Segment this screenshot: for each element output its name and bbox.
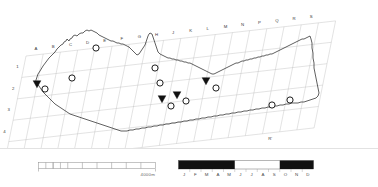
marker-layer <box>33 45 293 109</box>
month-label: A <box>257 172 268 177</box>
circle-marker <box>42 86 48 92</box>
grid-line-col <box>177 37 199 144</box>
month-label: J <box>246 172 257 177</box>
survey-grid <box>5 21 336 148</box>
month-tick-labels: JFMAMJJASOND <box>178 172 314 180</box>
month-label: A <box>212 172 223 177</box>
grid-column-label: S <box>310 14 313 19</box>
grid-column-label: K <box>189 28 192 33</box>
grid-line-col <box>228 31 250 138</box>
circle-marker <box>183 98 189 104</box>
grid-line-col <box>142 40 164 147</box>
grid-line-row <box>26 21 336 56</box>
circle-marker <box>269 102 275 108</box>
grid-row-label: 2 <box>12 86 15 91</box>
grid-column-label: A <box>34 46 37 51</box>
grid-line-col <box>108 44 130 148</box>
legend-strip: 4000m JFMAMJJASOND <box>0 150 378 187</box>
grid-line-col <box>194 35 216 142</box>
grid-column-label: P <box>258 20 261 25</box>
circle-marker <box>69 75 75 81</box>
grid-line-col <box>297 23 319 130</box>
map-figure: ABCDEFGHJKLMNPQRS1234B'D'F'R' 4000m JFMA… <box>0 0 378 187</box>
month-label: J <box>235 172 246 177</box>
month-label: M <box>224 172 235 177</box>
triangle-marker <box>173 92 181 99</box>
grid-column-label: G <box>138 34 142 39</box>
circle-marker <box>213 85 219 91</box>
circle-marker <box>93 45 99 51</box>
grid-line-col <box>125 42 146 148</box>
circle-marker <box>152 65 158 71</box>
grid-column-label: N <box>241 22 244 27</box>
grid-column-label: D <box>86 40 89 45</box>
grid-column-label: H <box>155 32 158 37</box>
grid-bottom-label: R' <box>268 136 272 141</box>
map-panel: ABCDEFGHJKLMNPQRS1234B'D'F'R' <box>0 0 378 148</box>
grid-line-col <box>56 50 78 148</box>
panel-divider <box>0 148 378 149</box>
grid-line-col <box>91 46 113 148</box>
triangle-marker <box>158 96 166 103</box>
grid-column-label: Q <box>275 18 279 23</box>
grid-line-col <box>5 56 27 148</box>
grid-row-label: 3 <box>8 107 11 112</box>
month-label: M <box>201 172 212 177</box>
grid-line-col <box>22 54 44 148</box>
grid-column-label: C <box>69 42 72 47</box>
grid-column-label: E <box>103 38 106 43</box>
grid-line-col <box>263 27 285 134</box>
grid-row-label: 1 <box>16 64 19 69</box>
circle-marker <box>287 97 293 103</box>
circle-marker <box>157 80 163 86</box>
distance-scale-bar: 4000m <box>38 158 156 180</box>
grid-column-label: F <box>120 36 123 41</box>
seasonal-month-bar: JFMAMJJASOND <box>178 158 314 180</box>
grid-line-col <box>245 29 266 136</box>
grid-column-label: L <box>206 26 209 31</box>
scale-bar-svg <box>38 158 156 180</box>
grid-column-label: B <box>52 44 55 49</box>
month-label: O <box>280 172 291 177</box>
scale-caption: 4000m <box>141 173 155 177</box>
month-bar-filled-range <box>179 161 235 170</box>
month-label: N <box>291 172 302 177</box>
grid-line-col <box>314 21 336 128</box>
month-label: S <box>269 172 280 177</box>
circle-marker <box>168 103 174 109</box>
month-label: D <box>302 172 313 177</box>
triangle-marker <box>202 78 210 85</box>
month-bar-filled-range <box>280 161 314 170</box>
grid-line-col <box>39 52 61 148</box>
grid-row-label: 4 <box>3 129 6 134</box>
grid-column-label: J <box>172 30 174 35</box>
month-label: J <box>179 172 190 177</box>
map-svg: ABCDEFGHJKLMNPQRS1234B'D'F'R' <box>0 0 378 148</box>
month-label: F <box>190 172 201 177</box>
grid-column-label: R <box>292 16 295 21</box>
grid-column-label: M <box>224 24 228 29</box>
